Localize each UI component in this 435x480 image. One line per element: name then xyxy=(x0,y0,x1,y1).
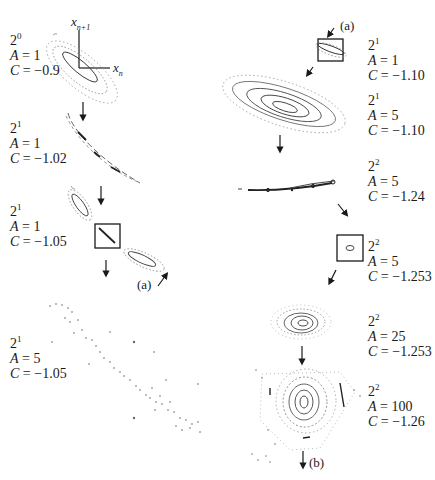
tag-b: (b) xyxy=(309,455,324,471)
arrow-up-right-icon xyxy=(158,275,166,286)
y-axis-label: xn+1 xyxy=(71,14,90,32)
panel-right-3-plot xyxy=(238,180,335,192)
panel-left-2-label: 21 A = 1 C = −1.02 xyxy=(10,121,67,166)
panel-right-4-label: 22 A = 5 C = −1.253 xyxy=(368,239,432,284)
panel-left-3-plot xyxy=(64,186,167,276)
panel-right-4-plot xyxy=(337,235,363,261)
panel-right-6-plot xyxy=(251,369,361,463)
x-axis-label: xn xyxy=(113,60,123,78)
panel-left-4-label: 21 A = 5 C = −1.05 xyxy=(10,336,67,381)
zoom-box xyxy=(337,235,363,261)
panel-right-1-plot xyxy=(314,39,347,61)
arrow-down-left-icon xyxy=(329,28,334,35)
panel-right-2-label: 21 A = 5 C = −1.10 xyxy=(368,93,425,138)
panel-left-4-plot xyxy=(49,303,201,433)
panel-left-1-label: 20 A = 1 C = −0.9 xyxy=(10,33,60,78)
tag-a-right: (a) xyxy=(340,18,354,34)
panel-right-5-plot xyxy=(271,305,331,339)
panel-left-2-plot xyxy=(66,113,140,183)
panel-right-5-label: 22 A = 25 C = −1.253 xyxy=(368,314,432,359)
tag-a-left: (a) xyxy=(137,277,151,293)
panel-left-3-label: 21 A = 1 C = −1.05 xyxy=(10,204,67,249)
arrow-down-left-icon xyxy=(330,270,336,282)
panel-right-1-label: 21 A = 1 C = −1.10 xyxy=(368,38,425,83)
panel-right-6-label: 22 A = 100 C = −1.26 xyxy=(368,384,425,429)
arrow-down-right-icon xyxy=(338,204,346,214)
zoom-box xyxy=(318,39,343,61)
panel-right-2-plot xyxy=(216,63,351,144)
panel-right-3-label: 22 A = 5 C = −1.24 xyxy=(368,159,425,204)
arrow-down-left-icon xyxy=(308,67,313,74)
